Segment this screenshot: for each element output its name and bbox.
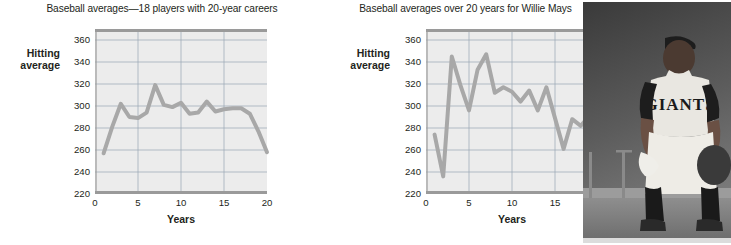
photo-pole-mid (622, 150, 625, 198)
y-axis-label-left-line2: average (8, 59, 60, 71)
y-tick-label: 260 (395, 145, 421, 155)
x-axis-label-left: Years (95, 213, 267, 225)
line-chart-left (95, 29, 267, 194)
y-tick-label: 320 (64, 79, 90, 89)
photo-jersey-text: GIANTS (644, 95, 715, 114)
willie-mays-photo: GIANTS (583, 2, 731, 243)
y-axis-label-right: Hitting average (338, 47, 390, 71)
y-tick-label: 360 (395, 35, 421, 45)
y-axis-label-right-line2: average (338, 59, 390, 71)
y-tick-label: 280 (64, 123, 90, 133)
line-chart-right (426, 29, 598, 194)
y-tick-label: 240 (64, 167, 90, 177)
y-tick-label: 340 (64, 57, 90, 67)
y-tick-label: 280 (395, 123, 421, 133)
y-tick-label: 240 (395, 167, 421, 177)
photo-player-head (663, 40, 695, 76)
x-tick-label: 20 (255, 198, 279, 208)
chart-panel-right: Baseball averages over 20 years for Will… (340, 0, 583, 245)
y-axis-label-left-line1: Hitting (8, 47, 60, 59)
photo-player-glove (697, 145, 731, 185)
chart-title-right: Baseball averages over 20 years for Will… (344, 3, 587, 14)
photo-pole-left (589, 152, 592, 198)
photo-player-sock-left (645, 187, 664, 221)
y-tick-label: 260 (64, 145, 90, 155)
y-tick-label: 360 (64, 35, 90, 45)
data-series-line (435, 54, 598, 176)
chart-title-left: Baseball averages—18 players with 20-yea… (0, 3, 332, 14)
plot-area-left (95, 29, 267, 194)
y-tick-label: 300 (395, 101, 421, 111)
x-tick-label: 15 (212, 198, 236, 208)
y-tick-label: 320 (395, 79, 421, 89)
y-tick-label: 340 (395, 57, 421, 67)
photo-player-sock-right (701, 187, 720, 221)
y-axis-label-left: Hitting average (8, 47, 60, 71)
x-tick-label: 5 (457, 198, 481, 208)
x-tick-label: 5 (126, 198, 150, 208)
x-axis-label-right: Years (426, 213, 598, 225)
x-tick-label: 10 (500, 198, 524, 208)
baseball-averages-figure: Baseball averages—18 players with 20-yea… (0, 0, 731, 245)
y-axis-label-right-line1: Hitting (338, 47, 390, 59)
photo-graphic: GIANTS (583, 2, 731, 243)
x-tick-label: 0 (414, 198, 438, 208)
x-tick-label: 0 (83, 198, 107, 208)
x-tick-label: 15 (543, 198, 567, 208)
plot-area-right (426, 29, 598, 194)
y-tick-label: 300 (64, 101, 90, 111)
photo-bottom-edge (583, 238, 731, 243)
photo-pole-crossbar (616, 150, 632, 153)
x-tick-label: 10 (169, 198, 193, 208)
data-series-line (104, 85, 267, 153)
chart-panel-left: Baseball averages—18 players with 20-yea… (0, 0, 340, 245)
